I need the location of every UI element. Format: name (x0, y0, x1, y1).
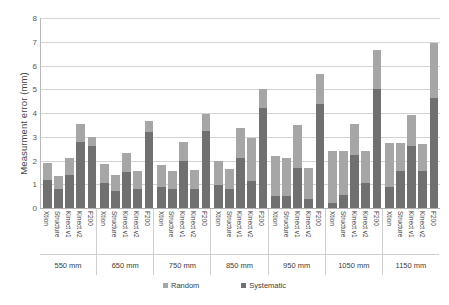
bar-segment-systematic (259, 108, 268, 208)
bar-segment-random (293, 125, 302, 168)
category-tick-label: Xtion (213, 209, 222, 254)
bar[interactable] (304, 168, 313, 208)
bar[interactable] (259, 89, 268, 208)
bar[interactable] (316, 74, 325, 208)
legend-swatch-icon (241, 283, 246, 288)
bar-segment-systematic (282, 196, 291, 208)
bar[interactable] (361, 151, 370, 208)
bar[interactable] (133, 171, 142, 208)
category-labels: XtionStructureKinect v1Kinect v2F200 (154, 209, 210, 255)
bar[interactable] (168, 171, 177, 208)
bar[interactable] (385, 143, 394, 208)
category-group: XtionStructureKinect v1Kinect v2F200650 … (97, 209, 154, 275)
bar[interactable] (122, 153, 131, 208)
bar[interactable] (54, 176, 63, 208)
stacked-bar-chart: Measurment error (mm) 012345678 XtionStr… (0, 0, 449, 305)
category-tick-label: F200 (314, 209, 323, 254)
bar[interactable] (407, 115, 416, 208)
bar-segment-random (361, 151, 370, 183)
bar-segment-random (43, 163, 52, 180)
bar[interactable] (145, 121, 154, 208)
bar[interactable] (430, 43, 439, 208)
bar[interactable] (339, 151, 348, 208)
bar[interactable] (88, 137, 97, 208)
bar-segment-random (350, 124, 359, 155)
bar-segment-random (236, 128, 245, 158)
bar-segment-systematic (225, 189, 234, 208)
bar-segment-random (225, 169, 234, 189)
bar[interactable] (396, 143, 405, 208)
bars-layer (41, 18, 440, 208)
category-tick-label: Kinect v2 (189, 209, 198, 254)
bar[interactable] (190, 170, 199, 208)
category-tick-label: Structure (396, 209, 405, 254)
bar-group (41, 18, 98, 208)
category-group: XtionStructureKinect v1Kinect v2F200850 … (211, 209, 268, 275)
group-axis-label: 850 mm (211, 255, 267, 275)
bar-segment-systematic (168, 189, 177, 208)
bar-group (98, 18, 155, 208)
category-labels: XtionStructureKinect v1Kinect v2F200 (211, 209, 267, 255)
bar-segment-systematic (373, 89, 382, 208)
category-tick-label: F200 (200, 209, 209, 254)
group-axis-label: 650 mm (97, 255, 153, 275)
bar-segment-random (179, 142, 188, 161)
bar[interactable] (76, 124, 85, 208)
bar[interactable] (65, 158, 74, 208)
y-tick-label-2: 2 (33, 156, 41, 165)
bar-segment-systematic (430, 98, 439, 208)
bar-segment-systematic (111, 191, 120, 208)
category-group: XtionStructureKinect v1Kinect v2F200550 … (40, 209, 97, 275)
category-tick-label: Structure (339, 209, 348, 254)
category-group: XtionStructureKinect v1Kinect v2F2001150… (383, 209, 439, 275)
bar-segment-random (54, 176, 63, 189)
bar-segment-systematic (76, 142, 85, 209)
bar[interactable] (282, 158, 291, 208)
bar-segment-random (259, 89, 268, 108)
bar[interactable] (202, 114, 211, 208)
bar-segment-random (247, 138, 256, 181)
bar[interactable] (373, 50, 382, 208)
y-tick-label-6: 6 (33, 61, 41, 70)
bar[interactable] (157, 165, 166, 208)
bar[interactable] (293, 125, 302, 208)
bar[interactable] (43, 163, 52, 208)
chart-legend: RandomSystematic (0, 281, 449, 290)
category-tick-label: Xtion (328, 209, 337, 254)
bar-group (383, 18, 440, 208)
legend-label: Random (171, 281, 199, 290)
bar[interactable] (247, 138, 256, 208)
category-tick-label: F200 (86, 209, 95, 254)
bar-segment-systematic (407, 146, 416, 208)
y-tick-label-1: 1 (33, 180, 41, 189)
bar-segment-systematic (350, 155, 359, 208)
bar[interactable] (271, 156, 280, 208)
bar-segment-systematic (100, 183, 109, 208)
legend-item[interactable]: Systematic (241, 281, 286, 290)
category-tick-label: Xtion (271, 209, 280, 254)
bar-segment-random (122, 153, 131, 172)
group-axis-label: 1050 mm (326, 255, 382, 275)
group-axis-label: 750 mm (154, 255, 210, 275)
category-labels: XtionStructureKinect v1Kinect v2F200 (40, 209, 96, 255)
bar-segment-random (76, 124, 85, 142)
bar[interactable] (350, 124, 359, 208)
legend-item[interactable]: Random (163, 281, 199, 290)
bar-segment-systematic (271, 196, 280, 208)
category-tick-label: Kinect v1 (292, 209, 301, 254)
category-tick-label: F200 (143, 209, 152, 254)
bar-segment-systematic (145, 132, 154, 208)
bar[interactable] (236, 128, 245, 208)
bar[interactable] (111, 175, 120, 208)
bar-segment-random (373, 50, 382, 89)
group-axis-label: 950 mm (269, 255, 325, 275)
legend-label: Systematic (249, 281, 286, 290)
bar[interactable] (179, 142, 188, 209)
bar[interactable] (100, 164, 109, 208)
bar[interactable] (225, 169, 234, 208)
bar[interactable] (418, 144, 427, 208)
bar-segment-random (133, 171, 142, 189)
bar[interactable] (328, 151, 337, 208)
bar[interactable] (214, 161, 223, 209)
group-axis-label: 1150 mm (383, 255, 439, 275)
